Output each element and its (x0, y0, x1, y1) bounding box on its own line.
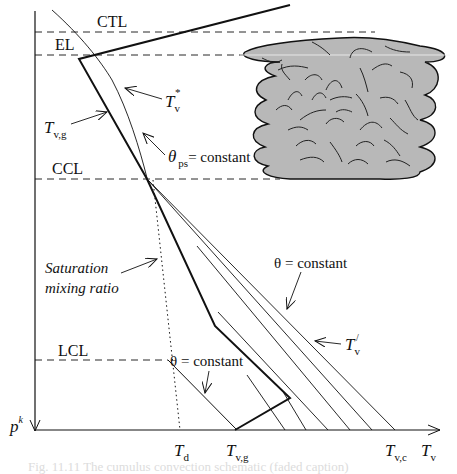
figure-caption: Fig. 11.11 The cumulus convection schema… (28, 459, 348, 474)
lcl-dry-adiabat (168, 360, 237, 430)
lcl-label: LCL (58, 342, 88, 359)
theta-ps-arrow-icon (143, 133, 165, 155)
y-axis-label: pk (9, 414, 24, 436)
theta-lower-label: θ = constant (170, 353, 244, 369)
sounding-diagram: CTL EL CCL LCL Tv* Tv,g θps= constant Sa… (0, 0, 457, 474)
tv-star-arrow-icon (125, 88, 162, 99)
tv-prime-label: Tv/ (345, 332, 360, 357)
tv-star-label: Tv* (165, 86, 180, 114)
x-tick-tvc: Tv,c (385, 441, 407, 463)
saturation-label-line2: mixing ratio (45, 280, 119, 296)
ctl-label: CTL (97, 13, 127, 30)
theta-ps-label: θps= constant (168, 147, 251, 169)
el-label: EL (55, 36, 75, 53)
x-axis-label: Tv (421, 441, 436, 463)
theta-upper-arrow-icon (287, 272, 301, 309)
saturation-arrow-icon (121, 259, 157, 273)
tvg-label: Tv,g (44, 118, 67, 140)
tv-prime-arrow-icon (315, 341, 341, 344)
theta-lower-arrow-icon (205, 371, 209, 393)
tvg-arrow-icon (71, 112, 107, 124)
theta-upper-label: θ = constant (274, 255, 348, 271)
theta-constant-fan (147, 179, 395, 430)
cumulus-cloud-icon (240, 37, 450, 179)
saturation-label-line1: Saturation (45, 260, 108, 276)
ccl-label: CCL (52, 160, 83, 177)
saturation-mixing-ratio-line (153, 180, 180, 430)
